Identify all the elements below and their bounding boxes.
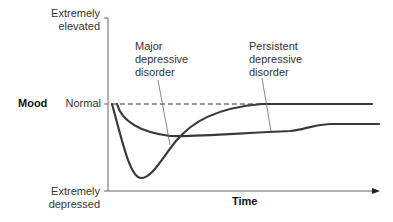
mdd-curve bbox=[112, 104, 372, 178]
pdd-label-line3: disorder bbox=[249, 66, 302, 79]
x-axis-title: Time bbox=[232, 195, 257, 208]
mdd-label-line2: depressive bbox=[135, 53, 188, 66]
y-tick-normal-label: Normal bbox=[66, 97, 101, 110]
y-tick-bottom-line1: Extremely bbox=[49, 185, 100, 198]
y-tick-bottom-label: Extremely depressed bbox=[49, 185, 100, 211]
pdd-label-line1: Persistent bbox=[249, 40, 302, 53]
y-tick-top-label: Extremely elevated bbox=[51, 7, 100, 33]
x-axis-arrow-icon bbox=[372, 188, 380, 194]
pdd-label: Persistent depressive disorder bbox=[249, 40, 302, 79]
y-axis-title: Mood bbox=[18, 97, 47, 110]
y-tick-bottom-line2: depressed bbox=[49, 198, 100, 211]
pdd-curve bbox=[117, 104, 379, 136]
mdd-label: Major depressive disorder bbox=[135, 40, 188, 79]
y-tick-top-line1: Extremely bbox=[51, 7, 100, 20]
pdd-label-line2: depressive bbox=[249, 53, 302, 66]
mdd-label-line1: Major bbox=[135, 40, 188, 53]
mdd-label-line3: disorder bbox=[135, 66, 188, 79]
y-tick-top-line2: elevated bbox=[51, 20, 100, 33]
